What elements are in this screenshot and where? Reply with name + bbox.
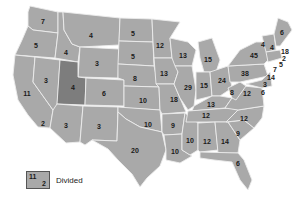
state-value-mo: 18 bbox=[170, 96, 178, 103]
state-value-sc: 9 bbox=[236, 130, 240, 137]
state-value-nd: 5 bbox=[131, 30, 135, 37]
state-value-wv: 8 bbox=[230, 89, 234, 96]
state-value-md: 14 bbox=[267, 74, 275, 81]
legend-label: Divided bbox=[56, 176, 83, 185]
state-value-az: 3 bbox=[64, 122, 68, 129]
state-value-nc: 12 bbox=[240, 115, 248, 122]
state-value-nv: 3 bbox=[44, 77, 48, 84]
state-value-ca-south: 2 bbox=[41, 120, 45, 127]
state-value-tx: 20 bbox=[131, 147, 139, 154]
state-value-ct: 5 bbox=[279, 61, 283, 68]
state-value-mt: 4 bbox=[89, 32, 93, 39]
state-value-il: 29 bbox=[184, 84, 192, 91]
state-value-id: 4 bbox=[64, 49, 68, 56]
state-value-ks: 10 bbox=[139, 97, 147, 104]
legend-divided-swatch: 11 2 bbox=[26, 171, 50, 189]
state-value-ga: 14 bbox=[221, 138, 229, 145]
state-value-pa: 38 bbox=[241, 70, 249, 77]
state-value-al: 12 bbox=[203, 138, 211, 145]
state-value-ar: 9 bbox=[171, 122, 175, 129]
state-value-ok: 10 bbox=[144, 121, 152, 128]
state-value-wa: 7 bbox=[41, 18, 45, 25]
legend: 11 2 Divided bbox=[26, 171, 83, 189]
legend-bottom-value: 2 bbox=[42, 180, 46, 187]
legend-top-value: 11 bbox=[29, 173, 36, 180]
state-value-wy: 3 bbox=[95, 60, 99, 67]
state-value-oh: 24 bbox=[218, 77, 226, 84]
state-value-nm: 3 bbox=[97, 123, 101, 130]
us-map bbox=[0, 0, 297, 199]
state-value-wi: 13 bbox=[179, 52, 187, 59]
state-mt bbox=[63, 12, 120, 47]
state-value-ky: 13 bbox=[207, 101, 215, 108]
state-ne bbox=[118, 64, 159, 87]
state-value-va: 12 bbox=[243, 90, 251, 97]
state-value-ma: 18 bbox=[281, 48, 289, 55]
state-value-tn: 12 bbox=[202, 112, 210, 119]
state-value-ca: 11 bbox=[23, 90, 30, 97]
state-fl bbox=[200, 152, 252, 190]
state-value-la: 10 bbox=[171, 148, 179, 155]
state-value-in: 15 bbox=[200, 82, 208, 89]
state-value-ia: 13 bbox=[160, 70, 168, 77]
state-nd bbox=[119, 18, 153, 42]
state-value-md-2: 6 bbox=[261, 89, 265, 96]
state-value-fl: 6 bbox=[236, 160, 240, 167]
state-value-or: 5 bbox=[34, 42, 38, 49]
state-value-ne: 8 bbox=[133, 75, 137, 82]
state-value-vt: 4 bbox=[261, 41, 265, 48]
state-value-mi: 15 bbox=[204, 56, 212, 63]
state-value-nh: 4 bbox=[270, 44, 274, 51]
state-value-ny: 45 bbox=[250, 52, 258, 59]
state-value-me: 6 bbox=[280, 29, 284, 36]
state-value-sd: 5 bbox=[131, 53, 135, 60]
state-value-ut: 4 bbox=[71, 84, 75, 91]
state-sd bbox=[118, 41, 154, 66]
state-value-ms: 10 bbox=[186, 137, 194, 144]
state-value-de: 3 bbox=[263, 81, 267, 88]
state-value-co: 6 bbox=[102, 90, 106, 97]
state-value-mn: 12 bbox=[156, 42, 164, 49]
state-value-nj: 7 bbox=[273, 66, 277, 73]
